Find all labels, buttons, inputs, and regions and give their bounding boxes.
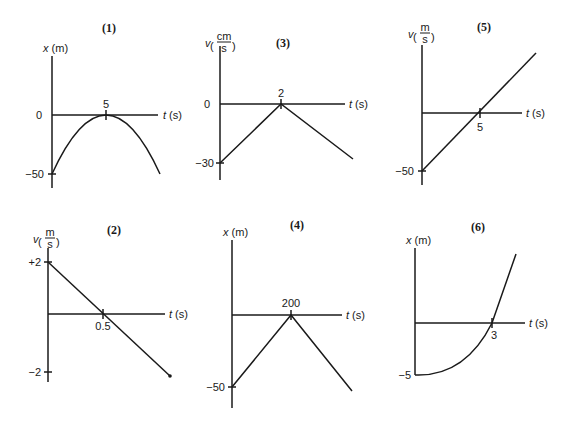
svg-text:m: m [45,226,54,238]
graph-4-x-label: t (s) [346,309,365,321]
graph-3-curve [220,104,353,163]
graph-1-curve [52,115,160,174]
graph-5: (5) v ( m s ) 5 −50 t (s) [395,20,545,185]
graph-4-y-tick-label: −50 [206,381,225,393]
svg-text:(: ( [210,40,214,52]
graph-3-x-label: t (s) [349,98,368,110]
graph-1-y-tick-label: −50 [25,168,44,180]
graph-5-y-tick-label: −50 [395,165,414,177]
graph-1-x-tick-label: 5 [103,98,109,110]
graph-4-x-tick-label: 200 [282,297,300,309]
graph-2: (2) v ( m s ) 0.5 +2 −2 t (s) [28,223,188,382]
graph-6-y-tick-label: −5 [398,369,411,381]
graph-3-title: (3) [276,36,290,50]
svg-text:s: s [221,42,227,54]
svg-text:(: ( [413,31,417,43]
graph-4-curve [232,315,352,391]
graph-5-x-label: t (s) [526,107,545,119]
svg-text:): ) [232,40,236,52]
svg-text:s: s [422,33,428,45]
graph-5-x-tick-label: 5 [477,121,483,133]
graph-2-x-tick-label: 0.5 [95,320,110,332]
graph-6-title: (6) [471,220,485,234]
graphs-figure: (1) x (m) 5 0 −50 t (s) (3) v ( cm s ) 2… [0,0,574,426]
graph-5-title: (5) [477,20,491,34]
graph-2-curve [48,262,170,376]
graph-2-y-top-label: +2 [28,256,41,268]
graph-3-y-zero-label: 0 [204,98,210,110]
graph-1-y-label: x (m) [42,42,68,54]
graph-2-y-label: v ( m s ) [33,226,60,250]
graph-2-title: (2) [107,223,121,237]
graph-2-x-label: t (s) [169,308,188,320]
graph-1-x-label: t (s) [163,109,182,121]
graph-6-x-tick-label: 3 [491,329,497,341]
graph-5-curve [422,53,536,171]
graph-4-title: (4) [290,218,304,232]
graph-1-y-zero-label: 0 [36,109,42,121]
svg-text:cm: cm [217,30,232,42]
graph-1-title: (1) [102,21,116,35]
graph-1: (1) x (m) 5 0 −50 t (s) [25,21,182,188]
graph-4-y-label: x (m) [222,226,248,238]
graph-6-curve [415,254,516,375]
graph-6: (6) x (m) 3 −5 t (s) [398,220,548,381]
svg-text:): ) [56,236,60,248]
graph-6-y-label: x (m) [405,234,431,246]
svg-text:m: m [420,21,429,33]
graph-3-x-tick-label: 2 [278,87,284,99]
graph-5-y-label: v ( m s ) [408,21,435,45]
graph-6-x-label: t (s) [529,317,548,329]
svg-text:(: ( [38,236,42,248]
svg-text:): ) [431,31,435,43]
graph-2-y-bottom-label: −2 [28,366,41,378]
graph-2-endpoint [168,374,172,378]
graph-3-y-tick-label: −30 [195,157,214,169]
graph-3: (3) v ( cm s ) 2 0 −30 t (s) [195,30,368,180]
graph-4: (4) x (m) 200 −50 t (s) [206,218,365,408]
